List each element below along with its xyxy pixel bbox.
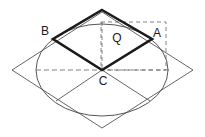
region-label-q: Q (112, 31, 121, 45)
thick-rhombus-shape (53, 10, 152, 70)
diagonal-right-line (102, 70, 150, 101)
vertex-label-b: B (41, 24, 49, 38)
vertex-label-c: C (99, 74, 108, 88)
vertex-label-a: A (153, 26, 161, 40)
geometry-canvas: B Q A C (0, 0, 205, 137)
diagonal-left-line (56, 70, 102, 101)
geometry-diagram: B Q A C (0, 0, 205, 137)
